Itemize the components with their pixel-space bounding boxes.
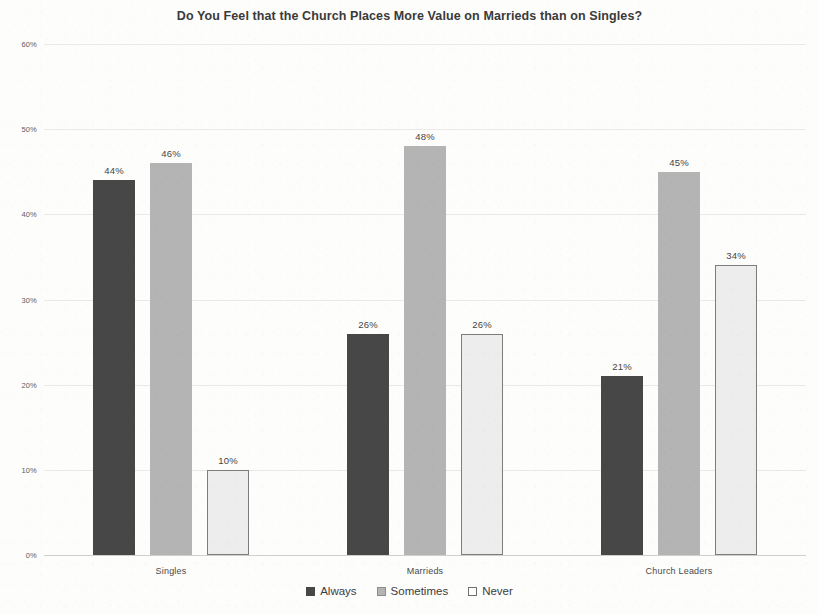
bar-value-label: 26% xyxy=(358,319,378,330)
bar-column: 21% xyxy=(601,44,643,555)
bar-value-label: 46% xyxy=(161,148,181,159)
bar-column: 44% xyxy=(93,44,135,555)
bar-group-bars: 21%45%34% xyxy=(552,44,806,555)
legend-item[interactable]: Never xyxy=(468,585,513,597)
legend-label: Always xyxy=(320,585,356,597)
bar-value-label: 10% xyxy=(218,455,238,466)
bar-column: 26% xyxy=(461,44,503,555)
bar-column: 48% xyxy=(404,44,446,555)
bar-value-label: 44% xyxy=(104,165,124,176)
x-axis-category-label: Marrieds xyxy=(298,566,552,576)
bar[interactable] xyxy=(658,172,700,555)
bar-value-label: 34% xyxy=(726,250,746,261)
bar-column: 34% xyxy=(715,44,757,555)
bar-group: 44%46%10%Singles xyxy=(44,44,298,555)
bar-column: 46% xyxy=(150,44,192,555)
legend: AlwaysSometimesNever xyxy=(0,585,819,597)
y-axis-tick-label: 50% xyxy=(21,125,37,134)
bar-column: 10% xyxy=(207,44,249,555)
y-axis-tick-label: 40% xyxy=(21,210,37,219)
x-axis-category-label: Church Leaders xyxy=(552,566,806,576)
legend-label: Sometimes xyxy=(391,585,449,597)
legend-swatch-sometimes-icon xyxy=(377,587,386,596)
gridline xyxy=(44,555,806,556)
bar[interactable] xyxy=(207,470,249,555)
bar-value-label: 26% xyxy=(472,319,492,330)
bar-column: 26% xyxy=(347,44,389,555)
bar-group: 26%48%26%Marrieds xyxy=(298,44,552,555)
legend-item[interactable]: Always xyxy=(306,585,356,597)
y-axis-tick-label: 30% xyxy=(21,295,37,304)
bar[interactable] xyxy=(93,180,135,555)
bar-group: 21%45%34%Church Leaders xyxy=(552,44,806,555)
y-axis-tick-label: 10% xyxy=(21,465,37,474)
y-axis-tick-label: 0% xyxy=(26,551,37,560)
bar[interactable] xyxy=(461,334,503,555)
bar[interactable] xyxy=(347,334,389,555)
bar[interactable] xyxy=(715,265,757,555)
bar-value-label: 45% xyxy=(669,157,689,168)
chart-page: Do You Feel that the Church Places More … xyxy=(0,0,819,614)
bar-value-label: 21% xyxy=(612,361,632,372)
y-axis-tick-label: 60% xyxy=(21,40,37,49)
bar[interactable] xyxy=(150,163,192,555)
bar-column: 45% xyxy=(658,44,700,555)
bar-value-label: 48% xyxy=(415,131,435,142)
legend-label: Never xyxy=(482,585,513,597)
bar-group-bars: 26%48%26% xyxy=(298,44,552,555)
bar[interactable] xyxy=(601,376,643,555)
plot-area: 0%10%20%30%40%50%60% 44%46%10%Singles26%… xyxy=(44,44,806,555)
legend-swatch-never-icon xyxy=(468,587,477,596)
bar-group-bars: 44%46%10% xyxy=(44,44,298,555)
y-axis-tick-label: 20% xyxy=(21,380,37,389)
chart-title: Do You Feel that the Church Places More … xyxy=(0,9,819,23)
bar[interactable] xyxy=(404,146,446,555)
x-axis-category-label: Singles xyxy=(44,566,298,576)
legend-item[interactable]: Sometimes xyxy=(377,585,449,597)
legend-swatch-always-icon xyxy=(306,587,315,596)
